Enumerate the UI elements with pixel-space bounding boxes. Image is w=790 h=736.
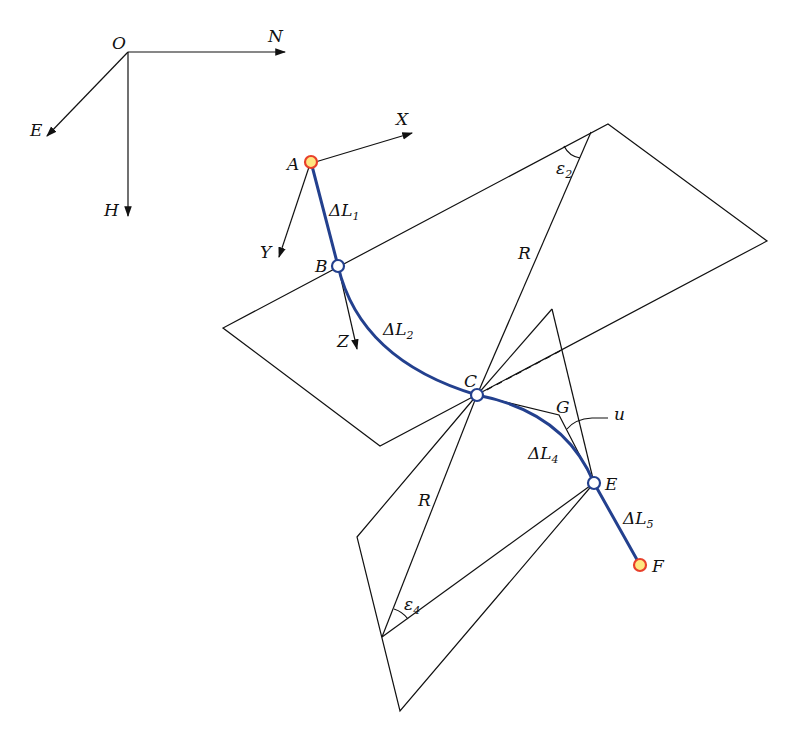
point-f-label: F	[651, 556, 665, 576]
point-a-label: A	[285, 154, 299, 174]
y-axis-label: Y	[260, 242, 273, 262]
point-g-label: G	[556, 397, 570, 417]
dl1-label: ΔL1	[328, 200, 360, 223]
y-axis-arrow	[279, 164, 310, 257]
point-c-label: C	[464, 371, 477, 391]
z-axis-label: Z	[336, 331, 350, 351]
h-axis-label: H	[103, 200, 120, 220]
u-angle-label: u	[614, 404, 625, 424]
eps2-label: ε2	[556, 158, 572, 181]
n-axis-label: N	[267, 26, 284, 46]
upper-radius-label: R	[517, 243, 531, 263]
x-axis-arrow	[312, 133, 412, 163]
origin-label: O	[112, 33, 126, 53]
point-e-marker	[588, 477, 600, 489]
dl2-label: ΔL2	[382, 319, 414, 342]
trajectory-diagram: O N E H ε2 R G u ε4 R	[0, 0, 790, 736]
local-axes: X Y Z	[260, 109, 412, 351]
lower-radius-line	[382, 395, 477, 637]
dl4-label: ΔL4	[527, 443, 559, 466]
eps4-label: ε4	[404, 594, 420, 617]
dl5-label: ΔL5	[622, 508, 654, 531]
point-a-marker	[305, 156, 317, 168]
point-b-label: B	[314, 256, 328, 276]
trajectory	[311, 162, 640, 565]
u-angle-leader	[567, 418, 608, 429]
e-axis-label: E	[29, 120, 43, 140]
point-f-marker	[634, 559, 646, 571]
point-e-label: E	[604, 474, 618, 494]
x-axis-label: X	[394, 109, 409, 129]
point-b-marker	[332, 260, 344, 272]
eps2-arc	[564, 146, 580, 158]
lower-plane-outline	[357, 395, 594, 711]
e-axis-arrow	[47, 52, 128, 136]
tangent-plane-edge-left	[477, 309, 552, 395]
global-axes: O N E H	[29, 26, 285, 220]
lower-radius-label: R	[417, 490, 431, 510]
dashed-extension-line	[477, 350, 562, 395]
upper-radius-line	[477, 132, 591, 395]
lower-plane: ε4 R	[357, 395, 594, 711]
